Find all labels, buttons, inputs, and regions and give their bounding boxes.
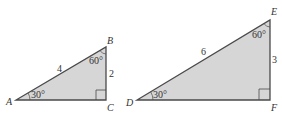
side-label-ef: 3 (272, 54, 277, 65)
vertex-label-e: E (270, 6, 277, 17)
vertex-label-b: B (107, 35, 113, 46)
side-label-bc: 2 (109, 68, 114, 79)
triangle-def-shape (137, 20, 270, 100)
vertex-label-c: C (107, 102, 114, 113)
angle-label-e: 60° (252, 29, 266, 40)
vertex-label-f: F (270, 102, 278, 113)
angle-label-d: 30° (153, 89, 167, 100)
side-label-ab: 4 (57, 63, 62, 74)
triangle-def: D E F 6 3 30° 60° (125, 6, 278, 113)
similar-triangles-diagram: A B C 4 2 30° 60° D E F 6 3 30° 60° (0, 0, 282, 115)
angle-label-a: 30° (31, 89, 45, 100)
angle-label-b: 60° (89, 55, 103, 66)
vertex-label-d: D (125, 97, 134, 108)
vertex-label-a: A (5, 96, 13, 107)
triangle-abc: A B C 4 2 30° 60° (5, 35, 114, 113)
side-label-de: 6 (201, 46, 206, 57)
